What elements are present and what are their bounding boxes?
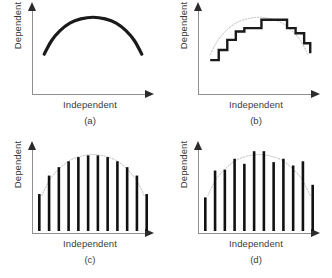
x-axis-label-c: Independent [32, 238, 148, 249]
plot-area-d [198, 147, 320, 231]
panel-caption-b: (b) [198, 115, 314, 126]
graph-svg-c [32, 147, 154, 233]
y-axis-label-c: Dependent [12, 131, 23, 199]
panel-d: Dependent Independent (d) [166, 139, 332, 278]
panel-a: Dependent Independent (a) [0, 0, 166, 139]
response-curve [44, 17, 142, 54]
reference-curve [42, 155, 144, 196]
x-axis-line-b [198, 94, 312, 95]
x-axis-line-c [32, 233, 146, 234]
x-axis-label-a: Independent [32, 99, 148, 110]
y-axis-label-d: Dependent [178, 131, 189, 199]
panel-caption-c: (c) [32, 254, 148, 265]
curve-group-d [205, 151, 312, 231]
y-axis-label-b: Dependent [178, 0, 189, 60]
panel-caption-d: (d) [198, 254, 314, 265]
y-axis-label-a: Dependent [12, 0, 23, 60]
x-axis-line-d [198, 233, 312, 234]
curve-group-a [44, 17, 142, 54]
graph-svg-b [198, 8, 320, 94]
plot-area-a [32, 8, 154, 92]
plot-area-c [32, 147, 154, 231]
x-axis-label-b: Independent [198, 99, 314, 110]
reference-curve [208, 155, 310, 196]
graph-svg-a [32, 8, 154, 94]
step-approximation-curve [210, 20, 310, 60]
curve-group-c [39, 155, 146, 231]
panel-c: Dependent Independent (c) [0, 139, 166, 278]
x-axis-line-a [32, 94, 146, 95]
figure-four-panel-plots: Dependent Independent (a) Dependent Inde… [0, 0, 332, 278]
reference-curve [210, 17, 308, 54]
x-axis-label-d: Independent [198, 238, 314, 249]
curve-group-b [210, 17, 310, 60]
panel-b: Dependent Independent (b) [166, 0, 332, 139]
panel-caption-a: (a) [32, 115, 148, 126]
plot-area-b [198, 8, 320, 92]
graph-svg-d [198, 147, 320, 233]
